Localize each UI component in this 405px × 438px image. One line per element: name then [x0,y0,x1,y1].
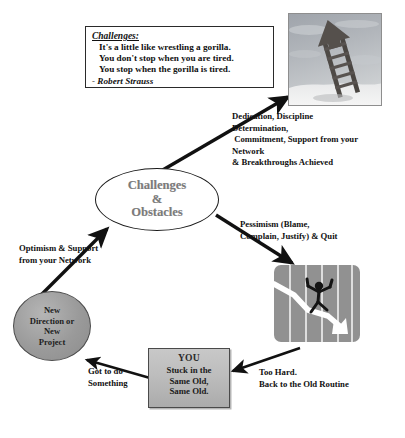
circle-line-3: New [44,326,60,337]
you-box-line-3: Same Old. [169,386,208,397]
node-you-stuck[interactable]: YOU Stuck in the Same Old, Same Old. [148,348,230,408]
falling-chart-stick-figure-photo [272,262,364,346]
quote-attribution: - Robert Strauss [92,76,268,88]
ellipse-line-3: Obstacles [131,206,182,220]
quote-line-3: You stop when the gorilla is tired. [92,64,268,75]
node-challenges-obstacles[interactable]: Challenges & Obstacles [95,168,219,231]
ladder-to-sky-photo [288,13,382,106]
label-got-to-do-something: Got to do Something [88,366,128,389]
ellipse-line-2: & [152,193,162,207]
circle-line-2: Direction or [30,316,74,327]
label-optimism-support: Optimism & Support from your Network [19,243,98,266]
diagram-canvas: Challenges: It's a little like wrestling… [0,0,405,438]
quote-heading: Challenges: [92,31,268,42]
quote-line-1: It's a little like wrestling a gorilla. [92,42,268,53]
quote-line-2: You don't stop when you are tired. [92,53,268,64]
you-box-line-1: Stuck in the [167,365,212,376]
node-new-direction-or-new-project[interactable]: New Direction or New Project [13,291,91,361]
ellipse-line-1: Challenges [128,179,186,193]
label-too-hard-old-routine: Too Hard. Back to the Old Routine [259,367,349,390]
circle-line-4: Project [39,337,66,348]
label-success-path: Dedication, Discipline Determination, Co… [232,111,358,169]
you-box-title: YOU [178,353,200,364]
you-box-line-2: Same Old, [169,376,208,387]
quote-box: Challenges: It's a little like wrestling… [85,26,274,88]
circle-line-1: New [44,305,60,316]
label-failure-path: Pessimism (Blame, Complain, Justify) & Q… [240,219,338,242]
